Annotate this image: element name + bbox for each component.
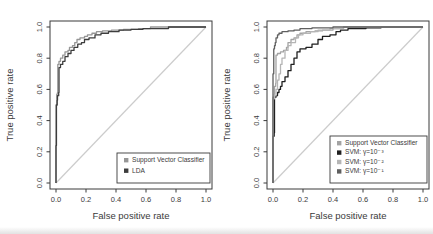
legend-label-0: Support Vector Classifier [132, 156, 205, 164]
legend-marker-0 [124, 158, 128, 162]
x-tick-label: 0.2 [81, 195, 91, 204]
legend-label-2: SVM: γ=10⁻² [345, 158, 384, 166]
x-tick-label: 0.0 [51, 195, 61, 204]
x-tick-label: 0.2 [298, 195, 308, 204]
legend-label-0: Support Vector Classifier [345, 139, 418, 147]
y-tick-label: 0.6 [35, 84, 44, 94]
x-tick-label: 0.8 [171, 195, 181, 204]
y-tick-label: 0.8 [35, 53, 44, 63]
x-tick-label: 0.6 [141, 195, 151, 204]
y-tick-label: 1.0 [252, 22, 261, 32]
legend-marker-3 [337, 169, 341, 173]
y-tick-label: 0.0 [35, 178, 44, 188]
legend-label-1: LDA [132, 167, 145, 174]
x-tick-label: 0.8 [388, 195, 398, 204]
x-tick-label: 0.0 [268, 195, 278, 204]
x-tick-label: 0.4 [328, 195, 338, 204]
legend-label-3: SVM: γ=10⁻¹ [345, 167, 384, 175]
y-tick-label: 0.6 [252, 84, 261, 94]
legend-marker-1 [124, 169, 128, 173]
y-tick-label: 1.0 [35, 22, 44, 32]
legend-marker-0 [337, 141, 341, 145]
legend-marker-2 [337, 160, 341, 164]
y-axis-label: True positive rate [4, 68, 15, 141]
x-tick-label: 0.6 [358, 195, 368, 204]
y-tick-label: 0.2 [252, 147, 261, 157]
y-axis-label: True positive rate [221, 68, 232, 141]
roc-chart-right: 0.00.20.40.60.81.00.00.20.40.60.81.0Fals… [217, 0, 433, 234]
roc-panel-right: 0.00.20.40.60.81.00.00.20.40.60.81.0Fals… [217, 0, 433, 234]
roc-figure: 0.00.20.40.60.81.00.00.20.40.60.81.0Fals… [0, 0, 433, 234]
x-tick-label: 1.0 [418, 195, 428, 204]
y-tick-label: 0.0 [252, 178, 261, 188]
legend-marker-1 [337, 150, 341, 154]
x-tick-label: 1.0 [201, 195, 211, 204]
roc-chart-left: 0.00.20.40.60.81.00.00.20.40.60.81.0Fals… [0, 0, 217, 234]
y-tick-label: 0.8 [252, 53, 261, 63]
y-tick-label: 0.4 [35, 115, 44, 125]
x-axis-label: False positive rate [92, 210, 169, 221]
legend-label-1: SVM: γ=10⁻³ [345, 148, 384, 156]
y-tick-label: 0.2 [35, 147, 44, 157]
roc-panel-left: 0.00.20.40.60.81.00.00.20.40.60.81.0Fals… [0, 0, 217, 234]
y-tick-label: 0.4 [252, 115, 261, 125]
x-axis-label: False positive rate [309, 210, 386, 221]
x-tick-label: 0.4 [111, 195, 121, 204]
